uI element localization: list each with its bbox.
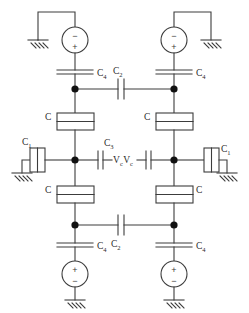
label-vc-left: Vc [113, 155, 123, 167]
node-top-right [170, 85, 177, 92]
element-c-top-left[interactable] [57, 113, 94, 130]
label-c-top-right: C [144, 112, 150, 122]
ground-mid-right [217, 173, 237, 181]
polarity-bottom-right-plus: + [171, 265, 176, 275]
ground-mid-left [12, 173, 32, 181]
polarity-bottom-left-minus: − [72, 276, 77, 286]
polarity-bottom-right-minus: − [171, 276, 176, 286]
ground-top-left [28, 40, 48, 48]
label-c-top-left: C [45, 112, 51, 122]
capacitor-c2-top[interactable] [118, 79, 124, 99]
element-c1-left[interactable] [30, 148, 45, 172]
capacitor-c4-top-left[interactable] [57, 70, 93, 74]
ground-bottom-right [164, 300, 184, 308]
ground-top-right [201, 40, 221, 48]
label-c1-right: C1 [221, 144, 231, 156]
node-mid-left [71, 156, 78, 163]
label-vc-right: Vc [123, 155, 133, 167]
polarity-top-left-plus: + [72, 42, 77, 52]
capacitor-c2-bottom[interactable] [118, 215, 124, 235]
node-low-right [170, 221, 177, 228]
element-c1-right[interactable] [204, 148, 219, 172]
capacitor-c4-top-right[interactable] [156, 70, 192, 74]
ground-bottom-left [65, 300, 85, 308]
capacitor-c3-right[interactable] [146, 151, 151, 169]
label-c2-bottom: C2 [111, 239, 121, 251]
label-c3: C3 [104, 138, 114, 150]
label-c2-top: C2 [113, 66, 123, 78]
element-c-bottom-left[interactable] [57, 186, 94, 203]
capacitor-c3-left[interactable] [98, 151, 103, 169]
label-c-bottom-right: C [196, 185, 202, 195]
capacitor-c4-bottom-right[interactable] [156, 243, 192, 247]
label-c4-top-left: C4 [97, 68, 107, 80]
label-c1-left: C1 [22, 137, 32, 149]
label-c-bottom-left: C [45, 185, 51, 195]
polarity-top-right-minus: − [171, 31, 176, 41]
circuit-schematic: − + − + + − + − C4 C4 C2 C C C1 C1 C3 Vc… [0, 0, 249, 313]
label-c4-bottom-left: C4 [97, 241, 107, 253]
polarity-bottom-left-plus: + [72, 265, 77, 275]
node-low-left [71, 221, 78, 228]
wire-gnd-to-c1-left [22, 160, 30, 173]
polarity-top-right-plus: + [171, 42, 176, 52]
schematic-canvas: − + − + + − + − C4 C4 C2 C C C1 C1 C3 Vc… [0, 0, 249, 313]
node-mid-right [170, 156, 177, 163]
node-top-left [71, 85, 78, 92]
capacitor-c4-bottom-left[interactable] [57, 243, 93, 247]
label-c4-top-right: C4 [196, 68, 206, 80]
polarity-top-left-minus: − [72, 31, 77, 41]
element-c-top-right[interactable] [156, 113, 193, 130]
element-c-bottom-right[interactable] [156, 186, 193, 203]
wire-c1-right-to-gnd [219, 160, 227, 173]
label-c4-bottom-right: C4 [196, 241, 206, 253]
